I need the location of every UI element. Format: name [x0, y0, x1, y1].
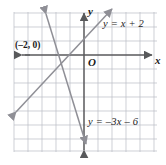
graph-figure: (–2, 0) y = x + 2 y = –3x – 6 O y x — [0, 0, 166, 165]
axes — [22, 13, 152, 150]
grid-lines — [14, 12, 157, 152]
y-axis-label: y — [88, 5, 93, 17]
line-y-equals-minus-3x-minus-6 — [46, 14, 86, 144]
line1-equation-label: y = x + 2 — [103, 18, 144, 29]
line2-equation-label: y = –3x – 6 — [88, 116, 138, 127]
line-y-equals-x-plus-2 — [16, 9, 112, 112]
origin-label: O — [88, 56, 96, 68]
intersection-point-label: (–2, 0) — [15, 40, 40, 50]
x-axis-label: x — [155, 54, 161, 66]
